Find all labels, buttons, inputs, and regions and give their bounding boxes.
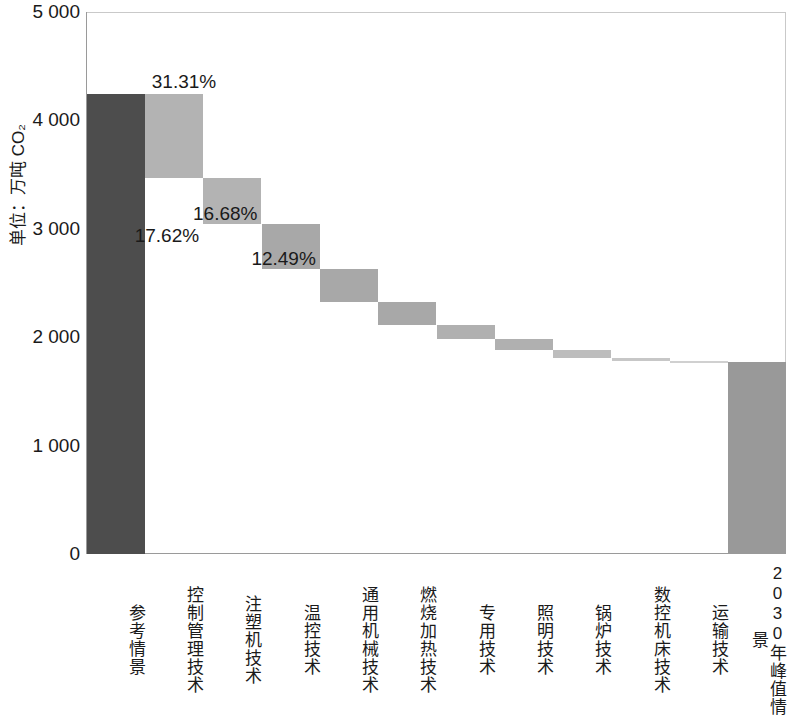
x-axis-label-7: 专用技术 (436, 560, 494, 720)
y-tick-label: 2 000 (0, 326, 86, 348)
bar-8 (495, 339, 553, 350)
y-axis-title: 单位：万吨 CO₂ (4, 36, 29, 246)
x-axis-label-9: 锅炉技术 (553, 560, 611, 720)
percent-label: 31.31% (148, 71, 216, 93)
plot-area: 31.31%17.62%16.68%12.49% (86, 12, 786, 554)
x-axis-label-3: 注塑机技术 (203, 560, 261, 720)
bar-5 (320, 269, 378, 302)
bar-9 (553, 350, 611, 358)
percent-label: 16.68% (193, 203, 261, 225)
plot-border-top (86, 12, 786, 13)
bar-12 (728, 362, 786, 554)
percent-label: 17.62% (135, 225, 203, 247)
x-axis-label-4: 温控技术 (261, 560, 319, 720)
bar-7 (437, 325, 495, 339)
x-axis-label-1: 参考情景 (86, 560, 144, 720)
bar-2 (145, 94, 203, 177)
y-tick-label: 0 (0, 543, 86, 565)
bar-10 (612, 358, 670, 361)
x-axis-labels: 参考情景控制管理技术注塑机技术温控技术通用机械技术燃烧加热技术专用技术照明技术锅… (86, 560, 786, 726)
x-axis-label-2: 控制管理技术 (144, 560, 202, 720)
x-axis-label-5: 通用机械技术 (319, 560, 377, 720)
x-axis-label-6: 燃烧加热技术 (378, 560, 436, 720)
percent-label: 12.49% (251, 248, 319, 270)
y-tick-label: 1 000 (0, 435, 86, 457)
x-axis-line (86, 553, 786, 554)
bar-1 (87, 94, 145, 554)
x-axis-label-10: 数控机床技术 (611, 560, 669, 720)
bar-6 (378, 302, 436, 325)
x-axis-label-11: 运输技术 (669, 560, 727, 720)
x-axis-label-8: 照明技术 (494, 560, 552, 720)
bar-11 (670, 361, 728, 363)
y-tick-label: 5 000 (0, 1, 86, 23)
x-axis-label-12: 2030年峰值情景 (728, 560, 786, 720)
